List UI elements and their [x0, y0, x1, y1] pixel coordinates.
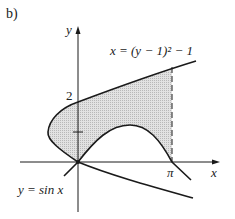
y-axis-arrow-icon [76, 26, 81, 34]
origin-point [76, 160, 80, 164]
x-axis-arrow-icon [212, 160, 220, 165]
parabola-equation-label: x = (y − 1)² − 1 [109, 43, 193, 58]
x-axis-label: x [210, 165, 217, 180]
part-label: b) [6, 6, 18, 22]
shaded-region [48, 70, 172, 162]
sine-equation-label: y = sin x [16, 182, 63, 197]
x-tick-label-pi: π [167, 165, 174, 180]
y-axis-label: y [64, 22, 72, 37]
diagram: b) y x 2 π x = (y − 1)² − 1 y = sin x [0, 0, 235, 219]
y-tick-label-2: 2 [66, 88, 73, 103]
